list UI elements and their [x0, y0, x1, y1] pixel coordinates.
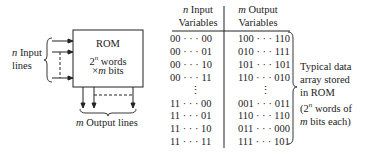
table-row-output: 110 · · · 010: [238, 72, 292, 85]
table-row-input: 11 · · · 10: [170, 123, 224, 136]
table-row-input: 00 · · · 00: [170, 33, 224, 46]
input-arrows: [52, 39, 73, 80]
rom-title: ROM: [73, 38, 143, 50]
table-row-output: 110 · · · 110: [238, 110, 292, 123]
input-lines-label-2: lines: [12, 60, 32, 72]
data-array-annotation: Typical data array stored in ROM (2n wor…: [300, 60, 352, 128]
table-row-input: 00 · · · 10: [170, 59, 224, 72]
header-output-variables: m OutputVariables: [228, 4, 288, 29]
output-lines-label: m Output lines: [76, 117, 138, 129]
table-row-input: 11 · · · 11: [170, 136, 224, 149]
table-row-input: 11 · · · 00: [170, 98, 224, 111]
table-row-input: 00 · · · 11: [170, 72, 224, 85]
table-row-output: 101 · · · 101: [238, 59, 292, 72]
rom-bits: ×m bits: [73, 65, 143, 77]
table-row-output: 111 · · · 101: [238, 136, 292, 149]
header-input-variables: n InputVariables: [172, 4, 224, 29]
table-row-ellipsis: ⋮: [238, 85, 292, 98]
output-brace: [80, 109, 136, 116]
table-row-output: 001 · · · 011: [238, 98, 292, 111]
table-row-output: 100 · · · 110: [238, 33, 292, 46]
table-row-output: 010 · · · 111: [238, 46, 292, 59]
table-row-input: 00 · · · 01: [170, 46, 224, 59]
input-column: 00 · · · 00 00 · · · 01 00 · · · 10 00 ·…: [170, 33, 224, 149]
output-column: 100 · · · 110 010 · · · 111 101 · · · 10…: [238, 33, 292, 149]
table-row-ellipsis: ⋮: [170, 85, 224, 98]
input-brace: [44, 38, 52, 82]
input-lines-label: n Input: [12, 47, 42, 59]
output-arrows: [81, 87, 135, 108]
table-row-output: 011 · · · 000: [238, 123, 292, 136]
table-row-input: 11 · · · 01: [170, 110, 224, 123]
